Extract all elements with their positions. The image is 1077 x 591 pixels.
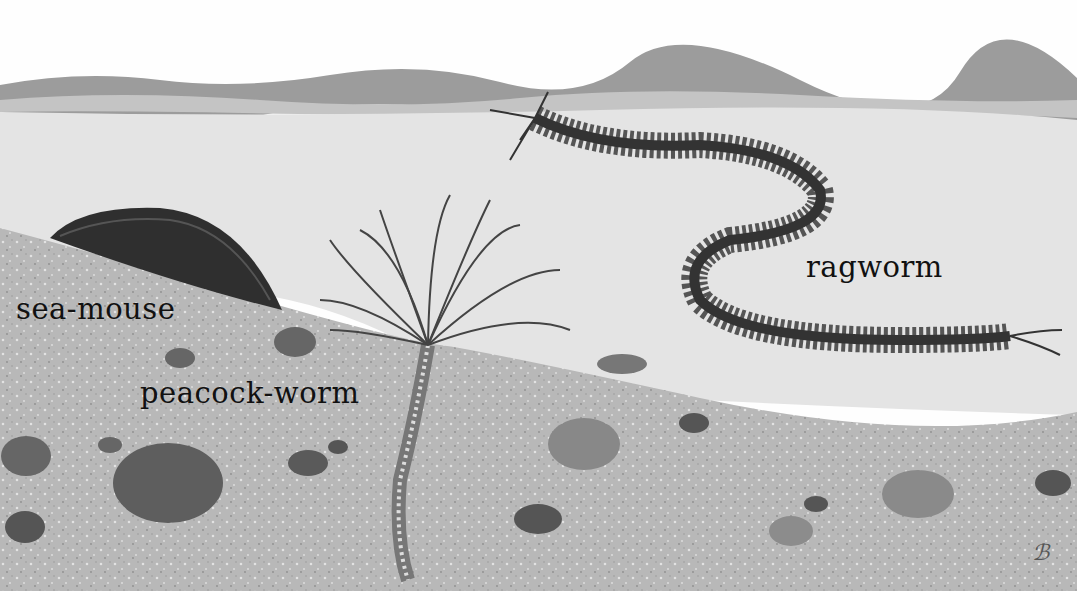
artist-signature: ℬ xyxy=(1032,540,1049,565)
label-ragworm: ragworm xyxy=(806,250,943,284)
label-peacock-worm: peacock-worm xyxy=(140,376,359,410)
label-sea-mouse: sea-mouse xyxy=(16,292,175,326)
